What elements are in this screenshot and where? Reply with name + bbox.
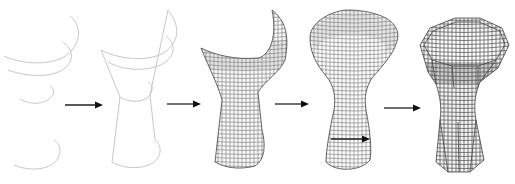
arrow-2-to-3 [167,101,201,108]
stage-4-revolved-mesh [305,5,405,180]
stage-1-profile-curves [4,16,79,169]
arrow-4-to-5 [384,105,421,112]
stage-5-octagonal-mesh [415,10,515,180]
diagram-canvas [0,0,515,184]
arrow-1-to-2 [65,102,103,109]
arrow-3-to-4 [275,101,309,108]
stage-2-skeleton [101,10,177,168]
pipeline-diagram [0,0,515,184]
stage-3-partial-mesh [198,5,293,175]
